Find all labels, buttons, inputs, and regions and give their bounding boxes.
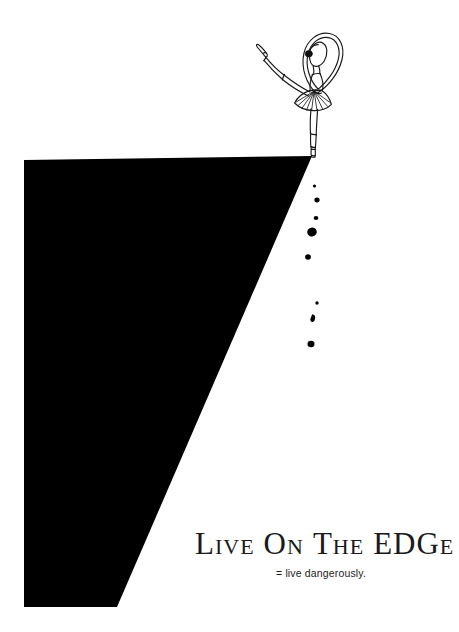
pebble: [306, 227, 318, 238]
dancer-support-knee: [310, 134, 316, 135]
headline-char: T: [313, 526, 333, 561]
headline-char: L: [195, 526, 215, 561]
pebble: [313, 184, 316, 187]
dancer-extended-ankle: [264, 58, 266, 61]
dancer-extended-foot-ribbon: [263, 53, 266, 54]
headline-char: IVE: [215, 534, 255, 559]
headline: LIVEONTHEEDGE: [195, 528, 447, 560]
dancer-extended-leg-lower: [283, 80, 309, 96]
pebble: [310, 314, 315, 322]
dancer-neck: [313, 66, 314, 75]
dancer-extended-foot: [256, 44, 267, 57]
dancer-hair-bun: [305, 51, 312, 58]
dancer-neck-back: [319, 66, 320, 73]
dancer-support-ankle: [311, 147, 316, 148]
dancer-extended-shin-bot: [264, 60, 283, 79]
pebble: [314, 216, 319, 220]
pebble: [305, 254, 311, 259]
subtitle-definition: = live dangerously.: [195, 567, 447, 579]
headline-char: E: [440, 534, 454, 559]
headline-char: G: [416, 526, 439, 561]
dancer-support-leg-front: [310, 109, 311, 135]
falling-pebbles-group: [305, 184, 320, 347]
ballerina-arabesque: [256, 33, 342, 157]
headline-char: HE: [333, 534, 364, 559]
dancer-support-leg-back: [316, 109, 317, 135]
pebble: [315, 301, 318, 304]
pebble: [314, 198, 319, 203]
title-block: LIVEONTHEEDGE = live dangerously.: [195, 528, 447, 579]
poster-canvas: LIVEONTHEEDGE = live dangerously.: [0, 0, 459, 632]
headline-char: O: [264, 526, 287, 561]
headline-char: E: [373, 526, 393, 561]
headline-char: N: [287, 534, 304, 559]
pebble: [308, 341, 315, 347]
headline-char: D: [393, 526, 416, 561]
